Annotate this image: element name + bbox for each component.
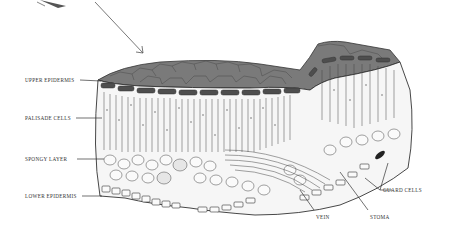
label-stoma: STOMA (370, 214, 390, 220)
label-guard-cells: GUARD CELLS (383, 187, 422, 193)
label-spongy-layer: SPONGY LAYER (25, 156, 67, 162)
label-vein: VEIN (316, 214, 330, 220)
leaf-icon (37, 0, 66, 8)
pointer-arrow (95, 2, 143, 53)
leaf-block (95, 41, 412, 215)
label-palisade-cells: PALISADE CELLS (25, 115, 71, 121)
label-lower-epidermis: LOWER EPIDERMIS (25, 193, 77, 199)
label-upper-epidermis: UPPER EPIDERMIS (25, 77, 74, 83)
